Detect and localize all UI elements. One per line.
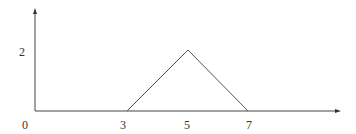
origin-label: 0 xyxy=(22,119,28,131)
x-axis-arrow-icon xyxy=(335,109,341,113)
x-tick-5: 5 xyxy=(184,119,190,131)
x-axis xyxy=(35,109,341,113)
chart-canvas xyxy=(0,0,356,134)
x-tick-3: 3 xyxy=(120,119,126,131)
y-axis-arrow-icon xyxy=(33,8,37,14)
y-tick-2: 2 xyxy=(19,46,25,58)
triangle-series xyxy=(127,50,248,111)
x-tick-7: 7 xyxy=(246,119,252,131)
y-axis xyxy=(33,8,37,111)
